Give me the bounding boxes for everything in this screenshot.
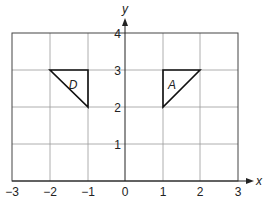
svg-text:0: 0 — [122, 185, 129, 197]
x-axis-arrow-icon — [246, 178, 254, 184]
x-tick-labels: −3 −2 −1 0 1 2 3 — [5, 185, 242, 197]
svg-text:2: 2 — [114, 101, 121, 115]
triangle-d-label: D — [69, 78, 78, 92]
svg-text:1: 1 — [114, 138, 121, 152]
x-axis-label: x — [255, 174, 263, 188]
coordinate-grid: x y −3 −2 −1 0 1 2 3 1 2 3 4 D A — [0, 0, 268, 197]
triangle-a-label: A — [167, 78, 176, 92]
svg-text:3: 3 — [235, 185, 242, 197]
y-axis-label: y — [121, 2, 129, 16]
svg-text:1: 1 — [160, 185, 167, 197]
svg-text:−1: −1 — [81, 185, 95, 197]
y-axis-arrow-icon — [122, 18, 128, 26]
svg-text:−2: −2 — [43, 185, 57, 197]
svg-text:−3: −3 — [5, 185, 19, 197]
y-tick-labels: 1 2 3 4 — [114, 27, 121, 152]
svg-text:4: 4 — [114, 27, 121, 41]
svg-text:2: 2 — [197, 185, 204, 197]
svg-text:3: 3 — [114, 64, 121, 78]
